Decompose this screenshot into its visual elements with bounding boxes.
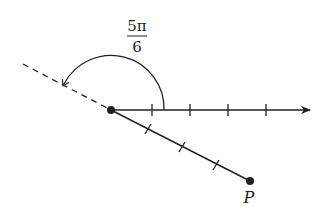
segment-ticks [145, 124, 219, 170]
point-p-label: P [243, 188, 255, 207]
angle-arc [64, 55, 164, 110]
origin-point [107, 106, 115, 114]
polar-diagram: 5π 6 P [0, 0, 324, 213]
segment-to-p [111, 110, 250, 181]
point-p [246, 177, 254, 185]
angle-label-numerator: 5π [127, 17, 147, 35]
dashed-ray [23, 64, 111, 110]
angle-label-denominator: 6 [132, 38, 142, 56]
